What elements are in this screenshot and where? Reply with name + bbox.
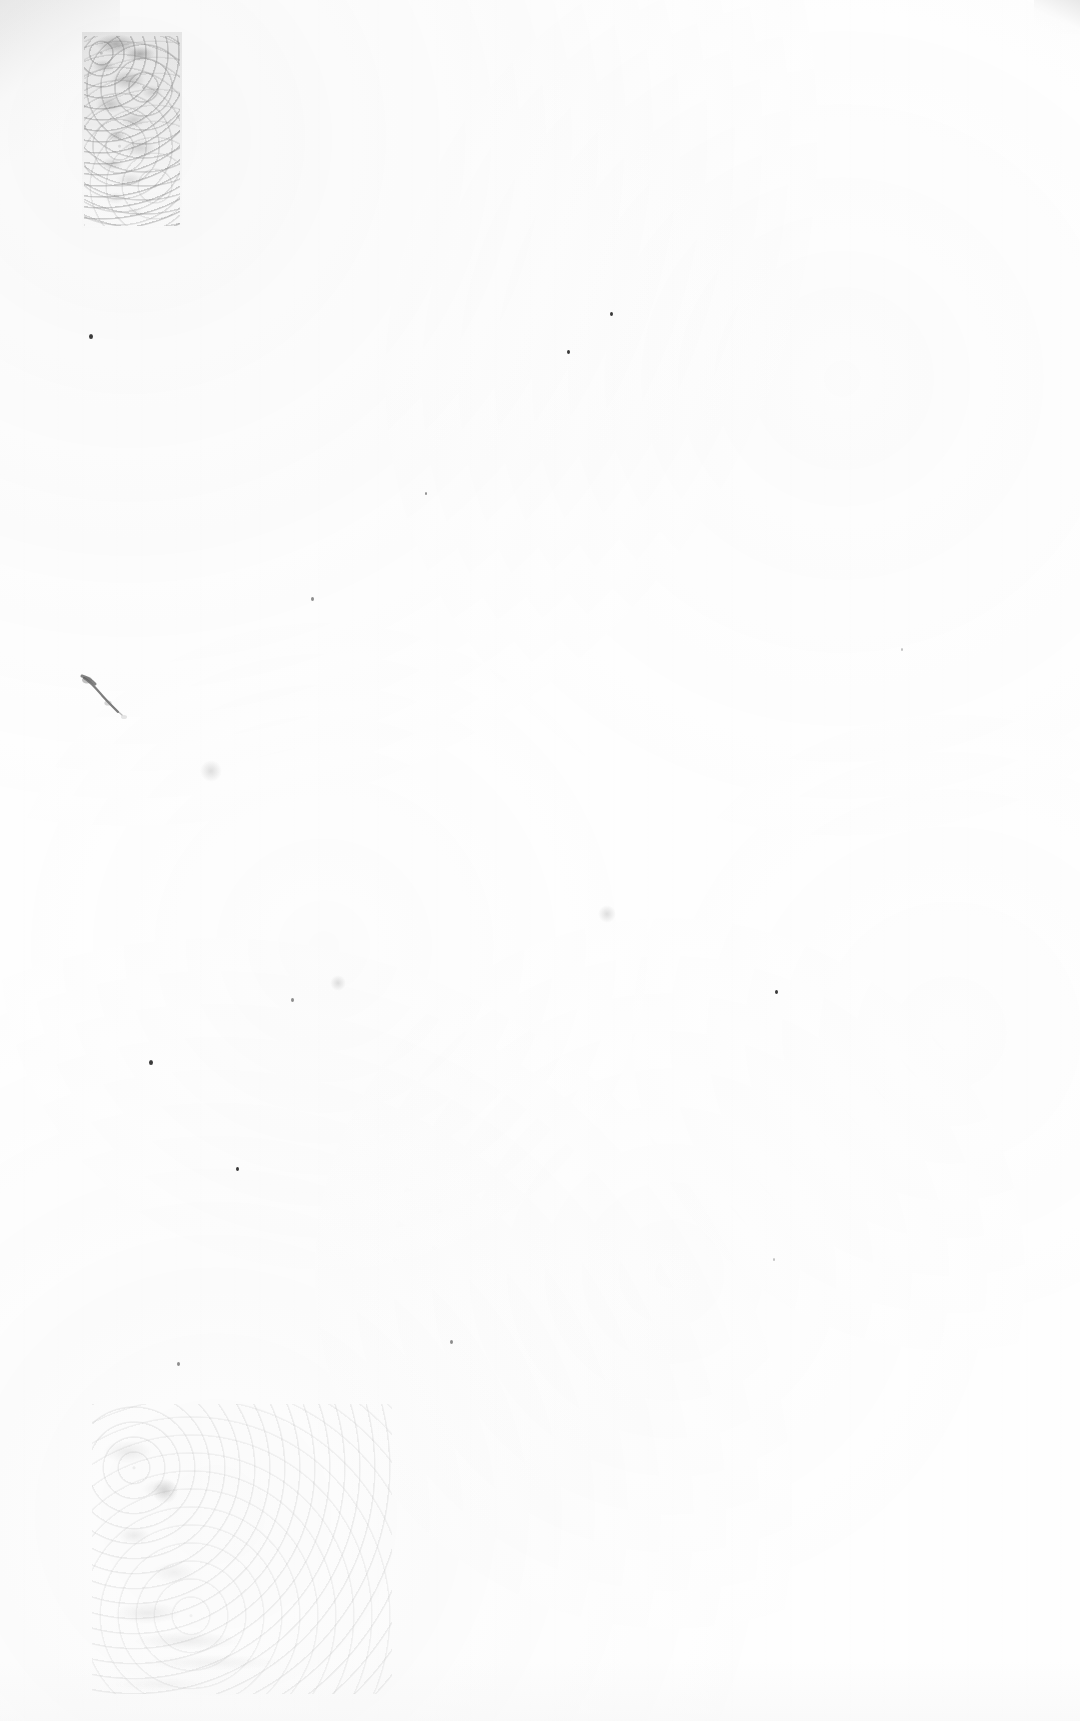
ink-speck (901, 648, 903, 651)
scanned-page (0, 0, 1080, 1721)
paper-blotch (598, 905, 616, 923)
paper-blotch (200, 760, 222, 782)
paper-blotch (330, 975, 346, 991)
paper-blotch (152, 1478, 178, 1504)
ink-speck (567, 350, 570, 354)
ink-speck (89, 334, 93, 339)
ink-speck (425, 492, 427, 495)
top-right-corner-shading (1034, 0, 1080, 34)
ink-speck (236, 1167, 239, 1171)
upper-left-smudge-speckle (84, 36, 180, 226)
ink-speck (773, 1258, 775, 1261)
ink-speck (450, 1340, 453, 1344)
ink-speck (775, 990, 778, 994)
ink-speck (177, 1362, 180, 1366)
ink-speck (291, 998, 294, 1002)
diagonal-stroke-icon (78, 672, 148, 722)
ink-speck (149, 1060, 153, 1065)
mid-left-diagonal-stroke (78, 672, 148, 722)
ink-speck (610, 312, 613, 316)
lower-left-band-speckle (92, 1404, 392, 1694)
ink-speck (311, 597, 314, 601)
